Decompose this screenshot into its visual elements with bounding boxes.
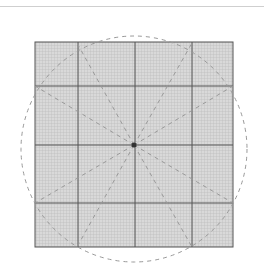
rotation-grid-diagram	[0, 0, 264, 275]
center-point[interactable]	[132, 143, 137, 148]
